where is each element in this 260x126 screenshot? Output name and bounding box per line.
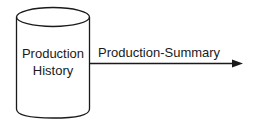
datastore-label-line2: History: [33, 63, 74, 78]
flow-label: Production-Summary: [98, 45, 221, 60]
arrow-head-icon: [232, 60, 243, 68]
flow-arrow: [90, 60, 244, 68]
datastore-label-line1: Production: [22, 46, 84, 61]
cylinder-top: [17, 8, 90, 27]
data-flow-diagram: Production History Production-Summary: [0, 0, 260, 126]
